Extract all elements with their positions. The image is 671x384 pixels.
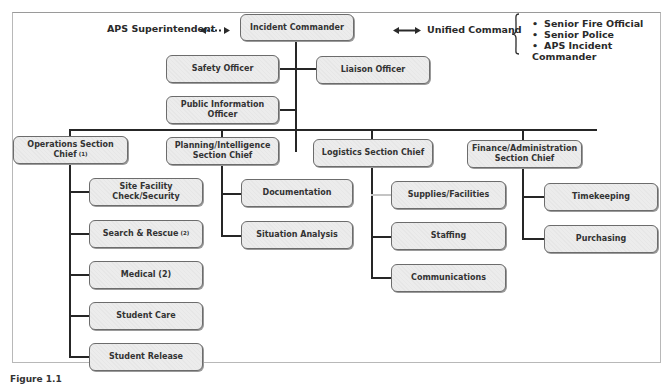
member-aps-ic: APS Incident Commander [532,40,671,62]
connector-log-unit-3 [371,277,391,279]
log-unit-staffing-box: Staffing [391,222,506,250]
ops-unit-site-security-box: Site Facility Check/Security [89,178,203,206]
member-fire: Senior Fire Official [532,18,671,29]
log-unit-supplies-box: Supplies/Facilities [391,181,506,209]
unified-command-label: Unified Command [427,24,522,35]
log-unit-communications-box: Communications [391,264,506,292]
connector-plan-unit-1 [221,193,241,195]
connector-ops-unit-5 [69,356,89,358]
liaison-officer-box: Liaison Officer [316,56,430,84]
connector-plan-unit-2 [221,235,241,237]
connector-ops-unit-1 [69,191,89,193]
connector-ic-trunk [295,40,297,152]
ops-unit-student-care-box: Student Care [89,302,203,330]
ops-unit-student-release-box: Student Release [89,343,203,371]
figure-caption: Figure 1.1 [10,374,62,384]
connector-safety [278,68,316,70]
connector-plan-spine [221,163,223,236]
connector-fin-unit-1 [522,196,544,198]
connector-log-spine [371,166,373,278]
connector-log-unit-2 [371,236,391,238]
incident-commander-box: Incident Commander [240,14,354,41]
ops-unit-medical-box: Medical (2) [89,261,203,289]
connector-ops-unit-4 [69,315,89,317]
connector-ops-unit-2 [69,233,89,235]
planning-section-chief-box: Planning/IntelligenceSection Chief [166,137,279,165]
pio-box: Public Information Officer [166,96,279,124]
operations-section-chief-box: Operations Section Chief(1) [13,136,128,164]
connector-ops-unit-3 [69,274,89,276]
curly-brace-icon [511,13,521,55]
connector-pio [278,109,296,111]
unified-command-members: Senior Fire Official Senior Police APS I… [532,18,671,62]
connector-sections-bus [69,129,597,131]
member-police: Senior Police [532,29,671,40]
fin-unit-purchasing-box: Purchasing [544,225,658,253]
logistics-section-chief-box: Logistics Section Chief [313,139,433,167]
safety-officer-box: Safety Officer [166,55,279,83]
finance-section-chief-box: Finance/AdministrationSection Chief [467,140,582,168]
connector-fin-spine [522,166,524,239]
fin-unit-timekeeping-box: Timekeeping [544,183,658,211]
plan-unit-situation-analysis-box: Situation Analysis [241,221,353,249]
plan-unit-documentation-box: Documentation [241,179,353,207]
dotted-double-arrow-icon [200,26,230,36]
connector-fin-unit-2 [522,238,544,240]
connector-log-unit-1 [371,194,391,196]
solid-double-arrow-icon [393,26,421,36]
ops-unit-search-rescue-box: Search & Rescue(2) [89,220,203,248]
